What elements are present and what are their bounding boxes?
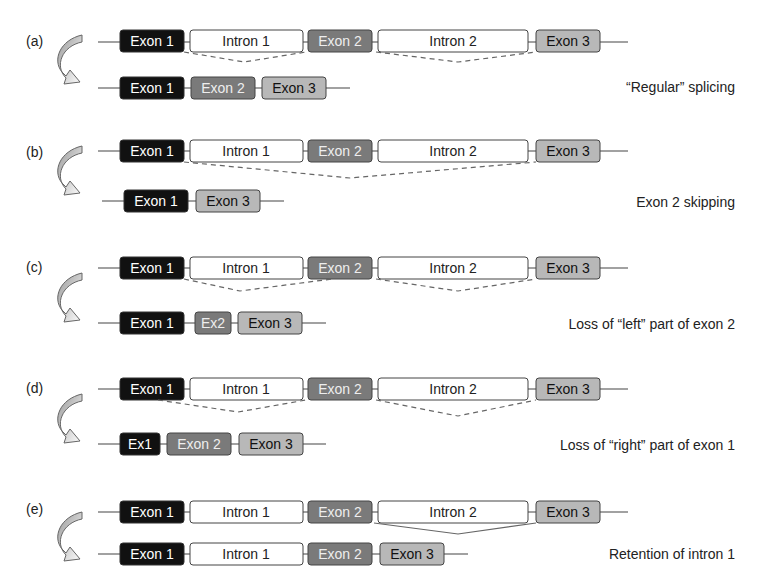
svg-text:Exon 3: Exon 3 — [546, 143, 590, 159]
svg-text:Exon 3: Exon 3 — [546, 504, 590, 520]
svg-text:Exon 3: Exon 3 — [390, 546, 434, 562]
curved-arrow-icon — [58, 512, 82, 561]
svg-text:Exon 1: Exon 1 — [130, 381, 174, 397]
splice-junction — [376, 400, 536, 416]
svg-text:Ex2: Ex2 — [201, 315, 225, 331]
svg-text:Exon 2: Exon 2 — [318, 504, 362, 520]
panel-label: (c) — [26, 259, 42, 275]
svg-text:Exon 1: Exon 1 — [130, 80, 174, 96]
svg-text:Exon 1: Exon 1 — [130, 260, 174, 276]
panel-d: (d) Exon 1 Intron 1 Exon 2 Intron 2 Exon… — [26, 378, 735, 455]
splice-junction — [376, 279, 536, 291]
splice-junction — [184, 279, 332, 291]
svg-text:Intron 1: Intron 1 — [222, 546, 270, 562]
svg-text:Ex1: Ex1 — [128, 436, 152, 452]
svg-text:Exon 3: Exon 3 — [206, 193, 250, 209]
svg-text:Intron 1: Intron 1 — [222, 381, 270, 397]
panel-label: (a) — [26, 33, 43, 49]
svg-text:Exon 1: Exon 1 — [130, 504, 174, 520]
svg-text:Exon 2: Exon 2 — [318, 546, 362, 562]
splice-junction — [376, 52, 536, 62]
svg-text:Exon 2: Exon 2 — [318, 381, 362, 397]
panel-caption: Loss of “left” part of exon 2 — [568, 316, 735, 332]
panel-b: (b) Exon 1 Intron 1 Exon 2 Intron 2 Exon… — [26, 140, 735, 212]
svg-text:Intron 1: Intron 1 — [222, 260, 270, 276]
svg-text:Exon 2: Exon 2 — [177, 436, 221, 452]
svg-text:Exon 1: Exon 1 — [130, 315, 174, 331]
svg-text:Exon 2: Exon 2 — [201, 80, 245, 96]
pre-mrna: Exon 1 Intron 1 Exon 2 Intron 2 Exon 3 — [98, 140, 628, 178]
panel-a: (a) Exon 1 Intron 1 Exon 2 Intron 2 Exon… — [26, 30, 735, 99]
splice-junction — [158, 400, 306, 412]
panel-c: (c) Exon 1 Intron 1 Exon 2 Intron 2 Exon… — [26, 257, 735, 334]
mature-mrna: Ex1 Exon 2 Exon 3 — [98, 433, 326, 455]
svg-text:Exon 3: Exon 3 — [249, 436, 293, 452]
curved-arrow-icon — [58, 394, 82, 443]
svg-text:Exon 2: Exon 2 — [318, 143, 362, 159]
pre-mrna: Exon 1 Intron 1 Exon 2 Intron 2 Exon 3 — [98, 257, 628, 291]
svg-text:Exon 1: Exon 1 — [130, 143, 174, 159]
panel-e: (e) Exon 1 Intron 1 Exon 2 Intron 2 Exon… — [26, 501, 735, 565]
splice-junction — [184, 162, 536, 178]
svg-text:Intron 2: Intron 2 — [429, 33, 477, 49]
svg-text:Exon 3: Exon 3 — [272, 80, 316, 96]
splicing-diagram: (a) Exon 1 Intron 1 Exon 2 Intron 2 Exon… — [0, 0, 761, 587]
svg-text:Intron 1: Intron 1 — [222, 143, 270, 159]
panel-caption: Exon 2 skipping — [636, 194, 735, 210]
curved-arrow-icon — [58, 35, 82, 84]
svg-text:Exon 1: Exon 1 — [130, 546, 174, 562]
svg-text:Intron 2: Intron 2 — [429, 381, 477, 397]
curved-arrow-icon — [58, 273, 82, 322]
svg-text:Intron 1: Intron 1 — [222, 33, 270, 49]
pre-mrna: Exon 1 Intron 1 Exon 2 Intron 2 Exon 3 — [98, 30, 628, 62]
svg-text:Exon 3: Exon 3 — [546, 33, 590, 49]
svg-text:Intron 2: Intron 2 — [429, 260, 477, 276]
svg-text:Exon 2: Exon 2 — [318, 260, 362, 276]
svg-text:Exon 3: Exon 3 — [248, 315, 292, 331]
svg-text:Exon 3: Exon 3 — [546, 260, 590, 276]
svg-text:Exon 1: Exon 1 — [134, 193, 178, 209]
panel-caption: Loss of “right” part of exon 1 — [560, 437, 735, 453]
mature-mrna: Exon 1 Exon 2 Exon 3 — [98, 77, 350, 99]
panel-caption: Retention of intron 1 — [609, 546, 735, 562]
panel-caption: “Regular” splicing — [626, 79, 735, 95]
svg-text:Exon 2: Exon 2 — [318, 33, 362, 49]
panel-label: (e) — [26, 501, 43, 517]
curved-arrow-icon — [58, 146, 82, 195]
splice-junction — [184, 52, 306, 62]
pre-mrna: Exon 1 Intron 1 Exon 2 Intron 2 Exon 3 — [98, 501, 628, 534]
svg-text:Intron 1: Intron 1 — [222, 504, 270, 520]
panel-label: (d) — [26, 380, 43, 396]
splice-junction — [374, 523, 536, 534]
panel-label: (b) — [26, 144, 43, 160]
pre-mrna: Exon 1 Intron 1 Exon 2 Intron 2 Exon 3 — [98, 378, 628, 416]
svg-text:Exon 1: Exon 1 — [130, 33, 174, 49]
mature-mrna: Exon 1 Ex2 Exon 3 — [98, 312, 326, 334]
mature-mrna: Exon 1 Intron 1 Exon 2 Exon 3 — [98, 543, 468, 565]
svg-text:Intron 2: Intron 2 — [429, 504, 477, 520]
mature-mrna: Exon 1 Exon 3 — [102, 190, 284, 212]
svg-text:Exon 3: Exon 3 — [546, 381, 590, 397]
svg-text:Intron 2: Intron 2 — [429, 143, 477, 159]
